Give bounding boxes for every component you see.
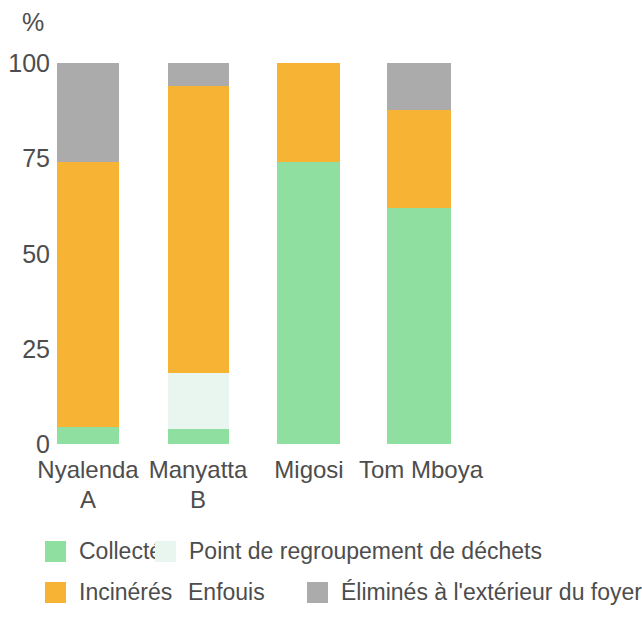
legend-label: Enfouis bbox=[188, 581, 265, 604]
chart-legend: CollectésPoint de regroupement de déchet… bbox=[0, 533, 642, 618]
bar-segment bbox=[168, 86, 229, 373]
x-axis-category-labels: Nyalenda AManyatta BMigosiTom Mboya bbox=[0, 455, 642, 517]
x-axis-label-4: Tom Mboya bbox=[311, 455, 531, 485]
legend-item: Enfouis bbox=[188, 574, 265, 610]
legend-item: Éliminés à l'extérieur du foyer bbox=[307, 574, 642, 610]
legend-label: Incinérés bbox=[79, 581, 172, 604]
bar-segment bbox=[168, 429, 229, 444]
bar-segment bbox=[277, 162, 340, 444]
bar-segment bbox=[168, 373, 229, 429]
stacked-bar-chart: % 1007550250 Nyalenda AManyatta BMigosiT… bbox=[0, 0, 642, 520]
bar-segment bbox=[277, 63, 340, 162]
legend-row-1: CollectésPoint de regroupement de déchet… bbox=[0, 533, 642, 569]
plot-area bbox=[0, 63, 642, 444]
legend-label: Point de regroupement de déchets bbox=[189, 540, 542, 563]
bar-segment bbox=[57, 427, 119, 444]
legend-swatch-icon bbox=[45, 541, 66, 562]
bar-4 bbox=[387, 63, 451, 444]
legend-row-2: IncinérésEnfouisÉliminés à l'extérieur d… bbox=[0, 574, 642, 610]
bar-segment bbox=[57, 63, 119, 162]
legend-item: Incinérés bbox=[45, 574, 172, 610]
bar-1 bbox=[57, 63, 119, 444]
legend-swatch-icon bbox=[45, 582, 66, 603]
legend-swatch-icon bbox=[155, 541, 176, 562]
bar-segment bbox=[387, 110, 451, 208]
bar-2 bbox=[168, 63, 229, 444]
legend-label: Éliminés à l'extérieur du foyer bbox=[341, 581, 642, 604]
bar-segment bbox=[387, 208, 451, 444]
legend-swatch-icon bbox=[307, 582, 328, 603]
bar-3 bbox=[277, 63, 340, 444]
legend-item: Point de regroupement de déchets bbox=[155, 533, 542, 569]
bar-segment bbox=[168, 63, 229, 86]
bar-segment bbox=[387, 63, 451, 110]
bar-segment bbox=[57, 162, 119, 427]
